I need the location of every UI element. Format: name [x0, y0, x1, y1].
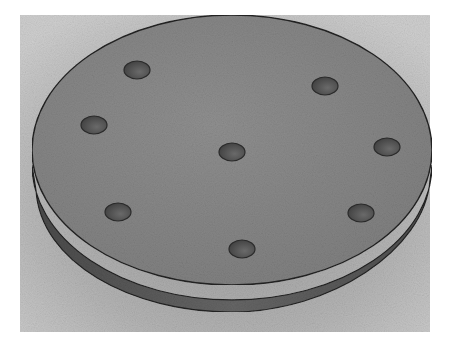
disc-render — [0, 0, 450, 348]
hole — [348, 204, 374, 222]
hole — [229, 240, 255, 258]
hole — [81, 116, 107, 134]
hole — [312, 77, 338, 95]
hole — [124, 61, 150, 79]
hole — [374, 138, 400, 156]
hole — [219, 143, 245, 161]
rendered-scene — [0, 0, 450, 348]
hole — [105, 203, 131, 221]
